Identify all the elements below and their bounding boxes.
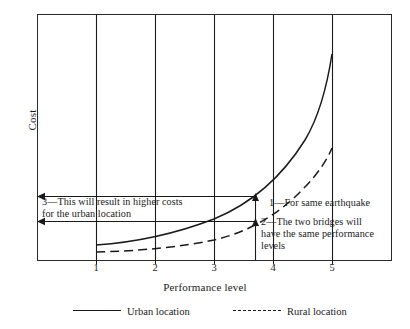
figure-container: Cost 1 2 3 4 5 Performance level 1—For s… (0, 0, 410, 329)
x-tick-label-1: 1 (86, 262, 106, 273)
annotation-2-text: 2—The two bridges will have the same per… (261, 216, 374, 253)
legend-item-rural: Rural location (233, 303, 347, 319)
x-tick-label-2: 2 (145, 262, 165, 273)
chart-canvas (0, 0, 410, 329)
x-tick-label-4: 4 (263, 262, 283, 273)
x-axis-label: Performance level (0, 281, 410, 293)
x-tick-label-3: 3 (204, 262, 224, 273)
legend-line-swatch-urban-icon (73, 306, 121, 316)
legend-label-rural: Rural location (287, 306, 347, 317)
y-axis-label: Cost (26, 100, 38, 140)
legend-item-urban: Urban location (73, 303, 190, 319)
x-tick-label-5: 5 (322, 262, 342, 273)
annotation-1-text: 1—For same earthquake (269, 197, 370, 209)
chart-legend: Urban location Rural location (0, 303, 410, 323)
legend-line-swatch-rural-icon (233, 306, 281, 316)
annotation-3-text: 3—This will result in higher costs for t… (42, 196, 183, 220)
legend-label-urban: Urban location (127, 306, 190, 317)
